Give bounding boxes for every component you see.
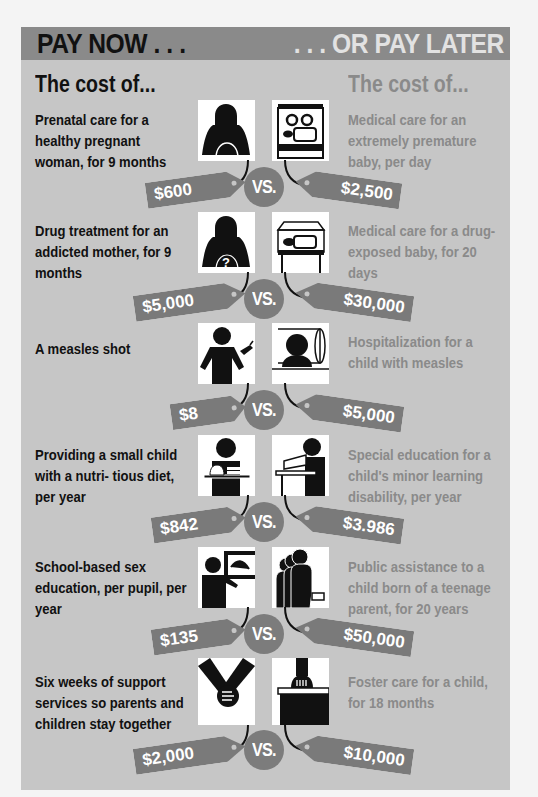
- later-price-tag: $2,500: [294, 169, 403, 209]
- comparison-row-6: Six weeks of support services so parents…: [21, 658, 510, 790]
- now-description: A measles shot: [35, 339, 190, 360]
- comparison-row-5: School-based sex education, per pupil, p…: [21, 547, 510, 659]
- now-description: Prenatal care for a healthy pregnant wom…: [35, 110, 190, 173]
- holding-hands-icon: [198, 658, 255, 725]
- now-price-tag: $135: [151, 617, 248, 656]
- header-left-title: PAY NOW . . .: [37, 28, 186, 60]
- later-description: Medical care for a drug-exposed baby, fo…: [348, 221, 501, 284]
- incubator-icon: [272, 100, 329, 161]
- teacher-board-icon: [198, 547, 255, 608]
- now-price-tag: $842: [151, 505, 248, 544]
- later-price-tag: $5,000: [294, 392, 405, 433]
- comparison-row-4: Providing a small child with a nutri- ti…: [21, 435, 510, 547]
- child-food-tray-icon: [198, 435, 255, 496]
- family-money-icon: [272, 547, 329, 608]
- comparison-row-2: Drug treatment for an addicted mother, f…: [21, 212, 510, 324]
- later-price-tag: $10,000: [294, 733, 414, 775]
- later-price-tag: $3.986: [294, 504, 405, 545]
- later-price-tag: $30,000: [294, 280, 414, 322]
- right-column-heading: The cost of...: [348, 71, 469, 98]
- now-price-tag: $600: [145, 169, 248, 209]
- now-description: Six weeks of support services so parents…: [35, 672, 190, 735]
- now-description: Drug treatment for an addicted mother, f…: [35, 221, 190, 284]
- comparison-row-1: Prenatal care for a healthy pregnant wom…: [21, 100, 510, 212]
- svg-text:?: ?: [222, 255, 230, 270]
- vs-badge: VS.: [244, 279, 284, 319]
- hospital-crib-icon: [272, 212, 329, 273]
- header-right-title: . . . OR PAY LATER: [294, 28, 504, 60]
- header-bar: PAY NOW . . . . . . OR PAY LATER: [21, 27, 510, 60]
- vs-badge: VS.: [244, 390, 284, 430]
- addicted-mother-icon: ?: [198, 212, 255, 273]
- later-description: Foster care for a child, for 18 months: [348, 672, 501, 714]
- child-vaccine-icon: [198, 323, 255, 384]
- hospitalized-child-icon: [272, 323, 329, 384]
- pregnant-woman-icon: [198, 100, 255, 161]
- later-description: Public assistance to a child born of a t…: [348, 557, 501, 620]
- now-price-tag: $5,000: [133, 280, 248, 321]
- left-column-heading: The cost of...: [35, 71, 156, 98]
- later-price-tag: $50,000: [294, 615, 414, 657]
- vs-badge: VS.: [244, 502, 284, 542]
- comparison-row-3: A measles shot VS. $8 $5,000 Hospitaliza…: [21, 323, 510, 435]
- now-price-tag: $2,000: [133, 733, 248, 774]
- infographic-panel: PAY NOW . . . . . . OR PAY LATER The cos…: [21, 27, 510, 790]
- now-description: School-based sex education, per pupil, p…: [35, 557, 190, 620]
- vs-badge: VS.: [244, 614, 284, 654]
- vs-badge: VS.: [244, 730, 284, 770]
- now-description: Providing a small child with a nutri- ti…: [35, 445, 190, 508]
- later-description: Special education for a child's minor le…: [348, 445, 501, 508]
- vs-badge: VS.: [244, 167, 284, 207]
- suitcase-icon: [272, 658, 329, 725]
- later-description: Hospitalization for a child with measles: [348, 332, 501, 374]
- student-desk-icon: [272, 435, 329, 496]
- later-description: Medical care for an extremely premature …: [348, 110, 501, 173]
